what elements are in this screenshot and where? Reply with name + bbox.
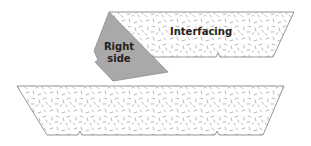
- bottom-piece-shape: [17, 86, 284, 135]
- right-side-label-line2: side: [107, 53, 131, 64]
- bottom-interfacing-piece: [17, 86, 284, 135]
- right-side-label-line1: Right: [104, 41, 134, 52]
- interfacing-label: Interfacing: [170, 26, 232, 37]
- interfacing-diagram: Interfacing Right side: [0, 0, 311, 146]
